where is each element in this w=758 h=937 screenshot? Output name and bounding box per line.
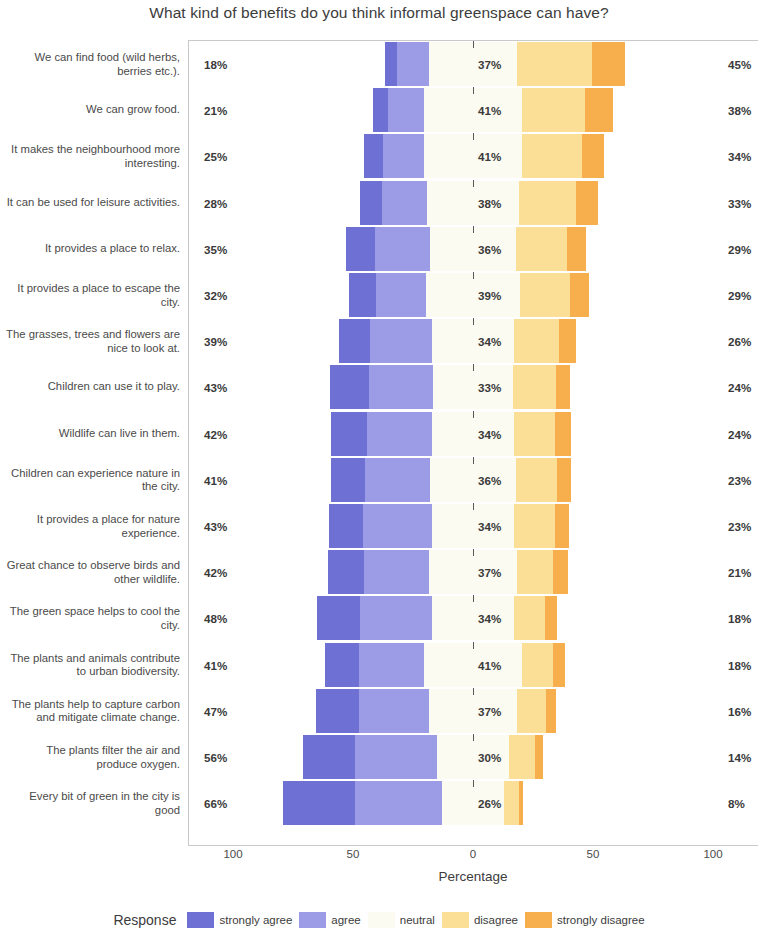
zero-reference-tick: [473, 642, 475, 649]
value-label-disagree-total: 18%: [728, 658, 751, 671]
legend-item[interactable]: strongly disagree: [525, 912, 645, 928]
value-label-neutral: 34%: [478, 612, 501, 625]
zero-reference-tick: [473, 180, 475, 187]
legend-item[interactable]: neutral: [368, 912, 435, 928]
chart-row: The grasses, trees and flowers are nice …: [0, 318, 758, 364]
bar-group: 43%33%24%: [188, 364, 758, 410]
value-label-neutral: 34%: [478, 335, 501, 348]
legend-item[interactable]: agree: [299, 912, 360, 928]
category-label: The plants and animals contribute to urb…: [4, 651, 180, 678]
value-label-agree-total: 47%: [204, 704, 227, 717]
value-label-agree-total: 41%: [204, 473, 227, 486]
category-label: We can grow food.: [4, 104, 180, 118]
segment-disagree: [522, 134, 582, 178]
legend-item[interactable]: disagree: [442, 912, 518, 928]
value-label-agree-total: 32%: [204, 289, 227, 302]
value-label-disagree-total: 33%: [728, 196, 751, 209]
segment-agree: [382, 181, 428, 225]
value-label-agree-total: 25%: [204, 150, 227, 163]
chart-row: It makes the neighbourhood more interest…: [0, 133, 758, 179]
legend-swatch-icon: [368, 912, 395, 928]
category-label: Every bit of green in the city is good: [4, 790, 180, 817]
segment-strongly-agree: [316, 689, 359, 733]
zero-reference-tick: [473, 595, 475, 602]
legend-label: agree: [331, 914, 360, 926]
value-label-neutral: 41%: [478, 104, 501, 117]
segment-strongly-disagree: [553, 550, 567, 594]
segment-strongly-disagree: [592, 42, 626, 86]
bar-group: 32%39%29%: [188, 272, 758, 318]
segment-strongly-disagree: [553, 643, 565, 687]
x-axis-label: Percentage: [188, 869, 758, 884]
zero-reference-tick: [473, 87, 475, 94]
segment-strongly-disagree: [576, 181, 598, 225]
value-label-disagree-total: 16%: [728, 704, 751, 717]
legend-swatch-icon: [299, 912, 326, 928]
legend: Response strongly agreeagreeneutraldisag…: [0, 912, 758, 928]
value-label-disagree-total: 18%: [728, 612, 751, 625]
category-label: It can be used for leisure activities.: [4, 196, 180, 210]
bar-group: 42%37%21%: [188, 549, 758, 595]
segment-agree: [376, 273, 426, 317]
value-label-disagree-total: 24%: [728, 427, 751, 440]
value-label-neutral: 34%: [478, 427, 501, 440]
category-label: The grasses, trees and flowers are nice …: [4, 328, 180, 355]
segment-strongly-disagree: [555, 504, 569, 548]
zero-reference-tick: [473, 688, 475, 695]
value-label-agree-total: 43%: [204, 520, 227, 533]
x-axis-line: [188, 845, 758, 846]
value-label-neutral: 37%: [478, 566, 501, 579]
legend-title: Response: [113, 912, 176, 928]
chart-row: Wildlife can live in them.42%34%24%: [0, 411, 758, 457]
bar-group: 41%41%18%: [188, 642, 758, 688]
segment-agree: [359, 689, 429, 733]
value-label-neutral: 37%: [478, 704, 501, 717]
segment-strongly-disagree: [545, 596, 557, 640]
legend-item[interactable]: strongly agree: [187, 912, 292, 928]
zero-reference-tick: [473, 133, 475, 140]
segment-strongly-agree: [331, 458, 365, 502]
segment-strongly-disagree: [519, 781, 524, 825]
segment-disagree: [516, 227, 566, 271]
segment-agree: [360, 596, 432, 640]
segment-disagree: [514, 504, 555, 548]
segment-neutral: [429, 689, 518, 733]
segment-strongly-disagree: [582, 134, 604, 178]
x-tick-label: 50: [347, 848, 360, 860]
segment-agree: [355, 781, 441, 825]
chart-row: The plants and animals contribute to urb…: [0, 642, 758, 688]
legend-label: strongly agree: [219, 914, 292, 926]
segment-strongly-agree: [330, 365, 368, 409]
value-label-agree-total: 41%: [204, 658, 227, 671]
bar-group: 39%34%26%: [188, 318, 758, 364]
bar-group: 56%30%14%: [188, 734, 758, 780]
value-label-agree-total: 42%: [204, 566, 227, 579]
value-label-neutral: 39%: [478, 289, 501, 302]
segment-agree: [364, 550, 429, 594]
segment-strongly-disagree: [535, 735, 542, 779]
value-label-neutral: 34%: [478, 520, 501, 533]
segment-strongly-agree: [328, 550, 364, 594]
value-label-disagree-total: 24%: [728, 381, 751, 394]
segment-disagree: [513, 365, 556, 409]
segment-strongly-agree: [329, 504, 363, 548]
segment-neutral: [432, 412, 514, 456]
value-label-agree-total: 66%: [204, 797, 227, 810]
value-label-disagree-total: 34%: [728, 150, 751, 163]
segment-strongly-agree: [325, 643, 359, 687]
legend-swatch-icon: [442, 912, 469, 928]
value-label-disagree-total: 38%: [728, 104, 751, 117]
bar-group: 28%38%33%: [188, 180, 758, 226]
chart-row: The plants help to capture carbon and mi…: [0, 688, 758, 734]
legend-label: strongly disagree: [557, 914, 645, 926]
chart-row: Great chance to observe birds and other …: [0, 549, 758, 595]
chart-title: What kind of benefits do you think infor…: [0, 4, 758, 22]
segment-strongly-disagree: [570, 273, 589, 317]
value-label-agree-total: 28%: [204, 196, 227, 209]
segment-strongly-agree: [385, 42, 397, 86]
value-label-neutral: 41%: [478, 658, 501, 671]
segment-neutral: [424, 643, 522, 687]
chart-row: Children can use it to play.43%33%24%: [0, 364, 758, 410]
zero-reference-tick: [473, 780, 475, 787]
value-label-neutral: 41%: [478, 150, 501, 163]
